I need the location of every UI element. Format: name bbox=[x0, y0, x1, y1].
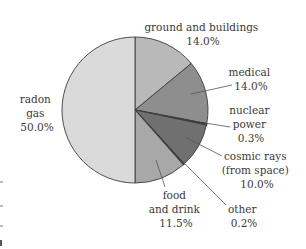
label-radon-gas: radon gas 50.0% bbox=[20, 93, 54, 133]
label-nuclear-power: nuclear power 0.3% bbox=[229, 104, 273, 144]
leader-line-nuclear bbox=[205, 123, 230, 127]
label-food-and-drink: food and drink 11.5% bbox=[149, 189, 204, 229]
label-cosmic-rays: cosmic rays (from space) 10.0% bbox=[222, 150, 293, 190]
edge-artifact bbox=[0, 205, 3, 207]
leader-line-other bbox=[183, 162, 226, 205]
pie-slices bbox=[62, 37, 208, 183]
edge-artifact bbox=[0, 181, 3, 183]
pie-slice-radon-gas bbox=[62, 37, 135, 183]
pie-chart: ground and buildings 14.0% medical 14.0%… bbox=[0, 0, 306, 249]
edge-artifact bbox=[0, 240, 2, 246]
edge-artifact bbox=[0, 225, 3, 227]
label-other: other 0.2% bbox=[228, 203, 260, 229]
label-medical: medical 14.0% bbox=[228, 66, 273, 92]
